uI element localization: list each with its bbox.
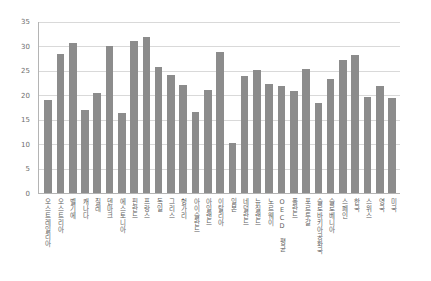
x-axis-label: 캐나다 — [81, 198, 88, 219]
bar[interactable] — [265, 84, 273, 193]
bar[interactable] — [290, 91, 298, 193]
x-axis-label-slot: 칠레 — [90, 196, 102, 276]
x-axis-label-slot: 핀란드 — [127, 196, 139, 276]
x-axis-label-slot: 노르웨이 — [263, 196, 275, 276]
bar-slot — [275, 22, 287, 193]
y-tick-label: 35 — [21, 19, 30, 26]
x-axis-label: 스페인 — [340, 198, 347, 219]
bar[interactable] — [130, 41, 138, 193]
y-tick-label: 25 — [21, 68, 30, 75]
x-axis-label: 헝가리 — [180, 198, 187, 219]
y-tick-label: 30 — [21, 43, 30, 50]
bar-series — [40, 22, 400, 193]
x-axis-label-slot: 스페인 — [337, 196, 349, 276]
bar[interactable] — [388, 98, 396, 193]
bar-slot — [312, 22, 324, 193]
bar-slot — [374, 22, 386, 193]
bar-slot — [251, 22, 263, 193]
bar[interactable] — [315, 103, 323, 193]
bar-slot — [239, 22, 251, 193]
bar[interactable] — [93, 93, 101, 193]
x-axis-label: 일본 — [229, 198, 236, 212]
x-axis-label: 이탈리아 — [217, 198, 224, 226]
bar[interactable] — [278, 86, 286, 193]
x-axis-label: 뉴질랜드 — [254, 198, 261, 226]
x-axis-label: 아일랜드 — [204, 198, 211, 226]
bar[interactable] — [216, 52, 224, 193]
bar-slot — [67, 22, 79, 193]
x-axis-label-slot: 오스트레일리아 — [41, 196, 53, 276]
bar[interactable] — [155, 67, 163, 193]
bar-slot — [324, 22, 336, 193]
bar[interactable] — [327, 79, 335, 193]
x-axis-label-slot: 네덜란드 — [239, 196, 251, 276]
x-axis-label-slot: 일본 — [226, 196, 238, 276]
bar[interactable] — [241, 76, 249, 193]
bar-slot — [263, 22, 275, 193]
bar-slot — [153, 22, 165, 193]
y-axis: 05101520253035 — [0, 22, 34, 194]
bar[interactable] — [167, 75, 175, 193]
x-axis-label-slot: 오스트리아 — [53, 196, 65, 276]
x-axis-label-slot: 독일 — [152, 196, 164, 276]
bar-slot — [189, 22, 201, 193]
y-tick-label: 0 — [26, 191, 30, 198]
y-tick-label: 5 — [26, 166, 30, 173]
bar[interactable] — [81, 110, 89, 193]
x-axis-label: 프랑스 — [143, 198, 150, 219]
bar-slot — [349, 22, 361, 193]
x-axis-label: OECD 평균 — [278, 198, 285, 252]
bar[interactable] — [57, 54, 65, 193]
x-axis-label-slot: 아이슬란드 — [189, 196, 201, 276]
x-axis-label-slot: 슬로바키아공화국 — [313, 196, 325, 276]
x-axis-label: 오스트리아 — [56, 198, 63, 233]
bar-slot — [300, 22, 312, 193]
bar[interactable] — [192, 112, 200, 193]
bar[interactable] — [118, 113, 126, 193]
bar-slot — [361, 22, 373, 193]
x-axis-label: 칠레 — [93, 198, 100, 212]
bar-slot — [116, 22, 128, 193]
bar-slot — [288, 22, 300, 193]
x-axis-label: 폴란드 — [291, 198, 298, 219]
bar[interactable] — [253, 70, 261, 193]
bar[interactable] — [69, 43, 77, 193]
bar[interactable] — [229, 143, 237, 193]
x-axis-label-slot: 벨기에 — [66, 196, 78, 276]
x-axis-label-slot: 한국 — [350, 196, 362, 276]
bar-slot — [202, 22, 214, 193]
bar-slot — [54, 22, 66, 193]
bar[interactable] — [106, 46, 114, 193]
x-axis-labels: 오스트레일리아오스트리아벨기에캐나다칠레덴마크에스토니아핀란드프랑스독일그리스헝… — [39, 196, 401, 276]
x-axis-label: 독일 — [155, 198, 162, 212]
x-axis-label: 슬로바키아공화국 — [315, 198, 322, 254]
y-tick-label: 20 — [21, 92, 30, 99]
bar[interactable] — [204, 90, 212, 193]
x-axis-label: 한국 — [352, 198, 359, 212]
x-axis-label: 영국 — [377, 198, 384, 212]
x-axis-label: 포르투갈 — [303, 198, 310, 226]
bar-slot — [103, 22, 115, 193]
bar[interactable] — [143, 37, 151, 193]
x-axis-label: 덴마크 — [106, 198, 113, 219]
bar[interactable] — [44, 100, 52, 193]
bar[interactable] — [351, 55, 359, 193]
x-axis-label-slot: 아일랜드 — [201, 196, 213, 276]
x-axis-label-slot: 포르투갈 — [300, 196, 312, 276]
x-axis-label: 노르웨이 — [266, 198, 273, 226]
bar-slot — [177, 22, 189, 193]
x-axis-label-slot: 캐나다 — [78, 196, 90, 276]
x-axis-label: 스위스 — [365, 198, 372, 219]
bar[interactable] — [364, 97, 372, 193]
bar[interactable] — [376, 86, 384, 193]
bar[interactable] — [339, 60, 347, 193]
x-axis-label-slot: 이탈리아 — [214, 196, 226, 276]
x-axis-label: 핀란드 — [130, 198, 137, 219]
bar-slot — [91, 22, 103, 193]
x-axis-label-slot: 헝가리 — [177, 196, 189, 276]
x-axis-label-slot: 그리스 — [164, 196, 176, 276]
bar-slot — [226, 22, 238, 193]
bar[interactable] — [179, 85, 187, 193]
bar-slot — [214, 22, 226, 193]
bar[interactable] — [302, 69, 310, 193]
